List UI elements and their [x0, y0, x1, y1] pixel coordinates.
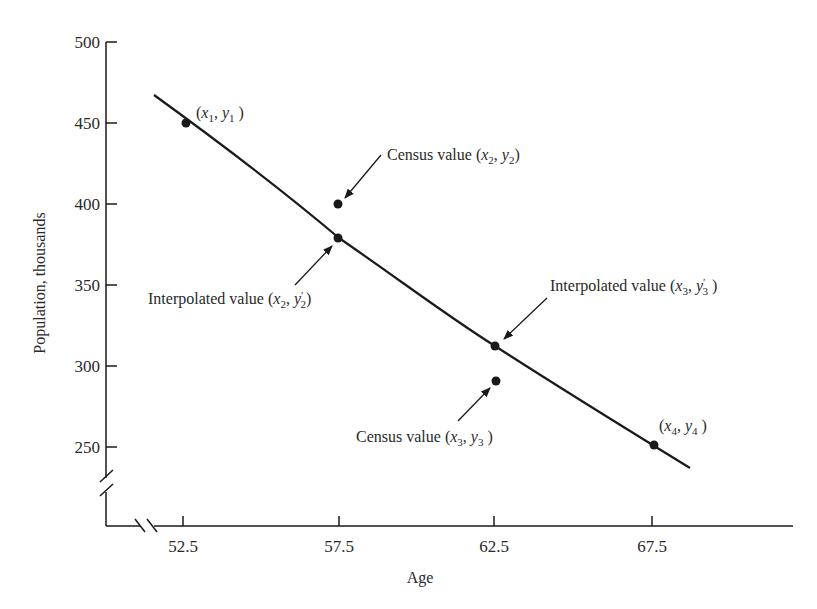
y-axis-label: Population, thousands: [31, 212, 49, 353]
x-tick-label: 57.5: [324, 537, 354, 556]
point-x4-y4: [650, 441, 659, 450]
y-tick-label: 300: [75, 357, 101, 376]
point-census-x2-y2: [334, 200, 343, 209]
y-tick-label: 250: [75, 438, 101, 457]
arrow-interp-x3: [504, 298, 547, 339]
chart: 500 450 400 350 300 250 52.5 57.5 62.5 6…: [0, 0, 817, 609]
annotation-arrows: [295, 155, 547, 421]
annotation-interp-x2-y2prime: Interpolated value (x2, y′2): [148, 289, 311, 310]
annotation-interp-x3-y3prime: Interpolated value (x3, y′3 ): [550, 276, 717, 297]
x-axis: [106, 516, 793, 532]
y-tick-label: 350: [75, 276, 101, 295]
annotation-x4-y4: (x4, y4 ): [659, 417, 707, 437]
point-interpolated-x3-y3prime: [491, 342, 500, 351]
x-axis-label: Age: [407, 569, 434, 587]
x-tick-labels: 52.5 57.5 62.5 67.5: [168, 537, 667, 556]
y-tick-labels: 500 450 400 350 300 250: [75, 33, 101, 457]
annotation-census-x3-y3: Census value (x3, y3 ): [356, 428, 493, 448]
x-tick-label: 52.5: [168, 537, 198, 556]
arrow-census-x3: [458, 388, 490, 421]
y-axis: [100, 42, 117, 526]
arrow-interp-x2: [295, 246, 332, 285]
annotation-x1-y1: (x1, y1 ): [196, 104, 244, 124]
y-tick-label: 500: [75, 33, 101, 52]
x-tick-label: 67.5: [637, 537, 667, 556]
y-tick-label: 400: [75, 195, 101, 214]
point-census-x3-y3: [492, 377, 501, 386]
arrow-census-x2: [345, 155, 381, 198]
annotation-census-x2-y2: Census value (x2, y2): [387, 146, 520, 166]
point-interpolated-x2-y2prime: [334, 234, 343, 243]
x-tick-label: 62.5: [479, 537, 509, 556]
y-tick-label: 450: [75, 114, 101, 133]
point-x1-y1: [182, 119, 191, 128]
